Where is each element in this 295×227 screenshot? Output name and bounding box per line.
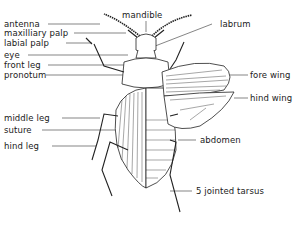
label-5-jointed-tarsus: 5 jointed tarsus [196, 186, 264, 196]
label-suture: suture [4, 125, 32, 135]
hind-wing-shape [164, 92, 234, 129]
label-pronotum: pronotum [4, 70, 46, 80]
label-eye: eye [4, 50, 20, 60]
label-mandible: mandible [122, 10, 162, 20]
label-labial-palp: labial palp [4, 38, 49, 48]
label-middle-leg: middle leg [4, 113, 50, 123]
label-maxilliary-palp: maxilliary palp [4, 28, 68, 38]
label-abdomen: abdomen [200, 135, 241, 145]
label-hind-leg: hind leg [4, 141, 39, 151]
beetle-anatomy-diagram: antenna maxilliary palp labial palp eye … [0, 0, 295, 227]
left-elytron [115, 88, 146, 188]
label-fore-wing: fore wing [250, 70, 290, 80]
label-front-leg: front leg [4, 60, 41, 70]
label-hind-wing: hind wing [250, 93, 292, 103]
label-labrum: labrum [220, 19, 251, 29]
